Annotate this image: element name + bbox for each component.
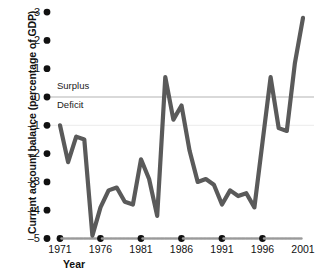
- chart-canvas: [0, 0, 316, 276]
- y-tick-label: –4: [14, 205, 40, 216]
- y-tick-label: –2: [14, 148, 40, 159]
- surplus-annotation: Surplus: [57, 80, 89, 91]
- y-tick-label: –3: [14, 176, 40, 187]
- x-tick-label: 1991: [202, 243, 242, 255]
- y-tick-label: 3: [14, 7, 40, 18]
- x-tick-label: 1971: [40, 243, 80, 255]
- plot-area: [0, 0, 316, 276]
- x-tick-label: 1976: [81, 243, 121, 255]
- deficit-annotation: Deficit: [57, 99, 83, 110]
- data-line-series: [60, 18, 303, 236]
- y-tick-label: 2: [14, 35, 40, 46]
- y-tick-label: –1: [14, 120, 40, 131]
- x-tick-label: 1996: [243, 243, 283, 255]
- y-tick-label: 1: [14, 63, 40, 74]
- x-axis-title: Year: [44, 258, 104, 270]
- chart-figure: Current account balance (percentage of G…: [0, 0, 316, 276]
- x-tick-label: 2001: [283, 243, 316, 255]
- x-tick-label: 1981: [121, 243, 161, 255]
- y-axis-tick-dots: [44, 9, 51, 242]
- y-tick-label: –5: [14, 233, 40, 244]
- y-tick-label: 0: [14, 92, 40, 103]
- x-tick-label: 1986: [162, 243, 202, 255]
